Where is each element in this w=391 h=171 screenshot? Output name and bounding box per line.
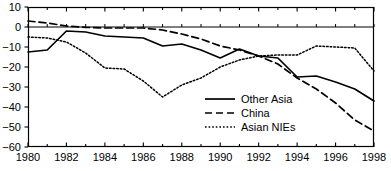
x-tick-label-5: 1990: [200, 152, 240, 163]
x-tick-label-6: 1992: [239, 152, 279, 163]
x-tick-label-9: 1998: [354, 152, 391, 163]
series-line-other-asia: [28, 31, 374, 101]
y-tick-label-3: −20: [0, 62, 21, 73]
y-tick-label-2: −10: [0, 42, 21, 53]
x-tick-label-8: 1996: [316, 152, 356, 163]
legend-label-asian-nies: Asian NIEs: [241, 122, 295, 133]
y-tick-label-4: −30: [0, 82, 21, 93]
series-line-asian-nies: [28, 37, 374, 97]
x-tick-label-0: 1980: [8, 152, 48, 163]
y-tick-label-1: 0: [0, 22, 21, 33]
x-tick-label-7: 1994: [277, 152, 317, 163]
y-tick-label-5: −40: [0, 102, 21, 113]
x-tick-label-3: 1986: [123, 152, 163, 163]
y-tick-label-0: 10: [0, 2, 21, 13]
legend-label-other-asia: Other Asia: [241, 94, 292, 105]
x-tick-label-1: 1982: [46, 152, 86, 163]
y-tick-label-6: −50: [0, 122, 21, 133]
legend-label-china: China: [241, 108, 270, 119]
x-tick-label-4: 1988: [162, 152, 202, 163]
series-line-china: [28, 21, 374, 131]
x-tick-label-2: 1984: [85, 152, 125, 163]
